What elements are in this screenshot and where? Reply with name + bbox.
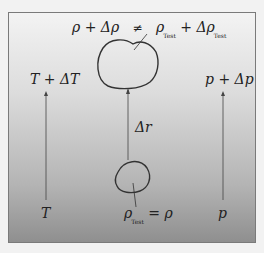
- upper-parcel-shape: [98, 40, 158, 89]
- bottom-rest: = ρ: [148, 205, 172, 221]
- top-rhs-sub: Test: [163, 32, 176, 39]
- displacement-label: Δr: [135, 120, 152, 134]
- top-rhs-plus: + Δρ: [180, 19, 215, 35]
- not-equal-sign: ≠: [133, 21, 143, 35]
- lower-leader-line: [133, 183, 136, 207]
- temperature-top-label: T + ΔT: [30, 72, 79, 86]
- pressure-arrowhead: [221, 91, 225, 96]
- top-equation: ρ + Δρ ≠ ρTest + ΔρTest: [72, 20, 226, 39]
- top-lhs: ρ + Δρ: [72, 19, 119, 35]
- pressure-bottom-label: p: [218, 206, 227, 220]
- top-rhs-plus-sub: Test: [214, 32, 227, 39]
- bottom-equation: ρTest = ρ: [124, 206, 173, 225]
- bottom-sub: Test: [131, 218, 144, 225]
- pressure-top-label: p + Δp: [205, 72, 254, 86]
- lower-parcel-shape: [115, 162, 149, 193]
- temperature-bottom-label: T: [41, 206, 50, 220]
- temperature-arrowhead: [44, 91, 48, 96]
